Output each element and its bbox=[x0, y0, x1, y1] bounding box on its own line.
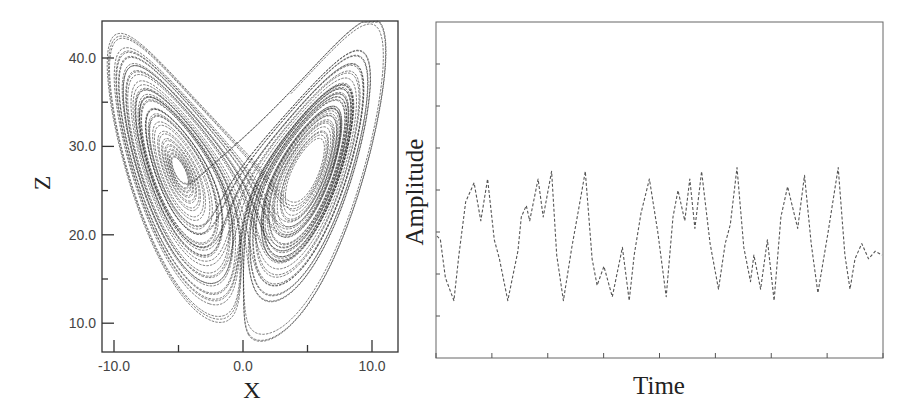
x-axis-ticks bbox=[114, 340, 372, 352]
amplitude-axis-title: Amplitude bbox=[401, 139, 428, 246]
z-tick-label: 10.0 bbox=[69, 315, 96, 331]
z-axis-ticks bbox=[102, 58, 114, 323]
amplitude-series-line bbox=[437, 168, 882, 301]
time-series-plot-frame bbox=[436, 22, 883, 358]
time-axis-ticks bbox=[436, 353, 883, 358]
time-axis-title: Time bbox=[633, 372, 685, 399]
z-axis-title: Z bbox=[29, 176, 55, 191]
x-axis-title: X bbox=[243, 377, 260, 403]
z-tick-label: 20.0 bbox=[69, 227, 96, 243]
x-tick-label: 0.0 bbox=[233, 358, 253, 374]
z-axis-tick-labels: 10.020.030.040.0 bbox=[69, 50, 96, 331]
attractor-panel: 10.020.030.040.0 -10.00.010.0 Z X bbox=[29, 21, 398, 403]
x-tick-label: -10.0 bbox=[98, 358, 130, 374]
x-axis-tick-labels: -10.00.010.0 bbox=[98, 358, 386, 374]
amplitude-axis-ticks bbox=[436, 64, 440, 316]
z-tick-label: 40.0 bbox=[69, 50, 96, 66]
time-series-panel: Amplitude Time bbox=[401, 22, 883, 399]
figure: 10.020.030.040.0 -10.00.010.0 Z X Amplit… bbox=[0, 0, 915, 420]
x-tick-label: 10.0 bbox=[358, 358, 385, 374]
attractor-trajectory bbox=[107, 21, 386, 341]
z-tick-label: 30.0 bbox=[69, 138, 96, 154]
